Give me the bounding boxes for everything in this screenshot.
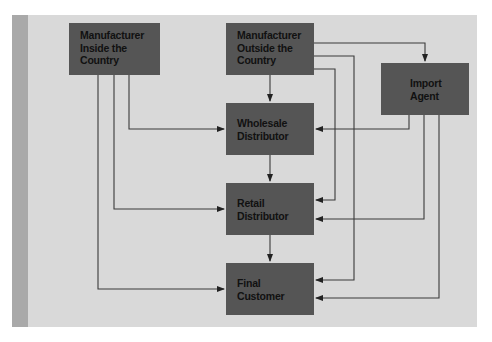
- edge-import-to-wholesale: [316, 115, 409, 129]
- node-label-line: Manufacturer: [80, 29, 150, 42]
- node-label-line: Wholesale: [237, 117, 307, 130]
- edge-mfr-outside-to-final: [314, 56, 354, 280]
- node-label-line: Customer: [237, 290, 307, 303]
- edge-mfr-inside-to-final: [98, 75, 224, 289]
- node-label-line: Final: [237, 277, 307, 290]
- edge-import-to-retail: [316, 115, 424, 219]
- node-manufacturer-inside: Manufacturer Inside the Country: [69, 23, 160, 75]
- node-import-agent: Import Agent: [381, 63, 469, 115]
- edge-mfr-outside-to-retail: [314, 69, 335, 200]
- node-label-line: Agent: [410, 90, 480, 103]
- node-label-line: Distributor: [237, 210, 307, 223]
- edge-mfr-inside-to-retail: [114, 75, 224, 209]
- node-final-customer: Final Customer: [226, 263, 314, 315]
- node-manufacturer-outside: Manufacturer Outside the Country: [226, 23, 314, 75]
- edge-mfr-inside-to-wholesale: [129, 75, 224, 129]
- node-label-line: Outside the: [237, 42, 307, 55]
- node-label-line: Distributor: [237, 130, 307, 143]
- node-retail-distributor: Retail Distributor: [226, 183, 314, 235]
- node-label-line: Import: [410, 77, 480, 90]
- node-label-line: Country: [80, 54, 150, 67]
- node-label-line: Inside the: [80, 42, 150, 55]
- node-label-line: Country: [237, 54, 307, 67]
- edge-mfr-outside-to-import: [314, 43, 425, 61]
- node-wholesale-distributor: Wholesale Distributor: [226, 103, 314, 155]
- node-label-line: Manufacturer: [237, 29, 307, 42]
- node-label-line: Retail: [237, 197, 307, 210]
